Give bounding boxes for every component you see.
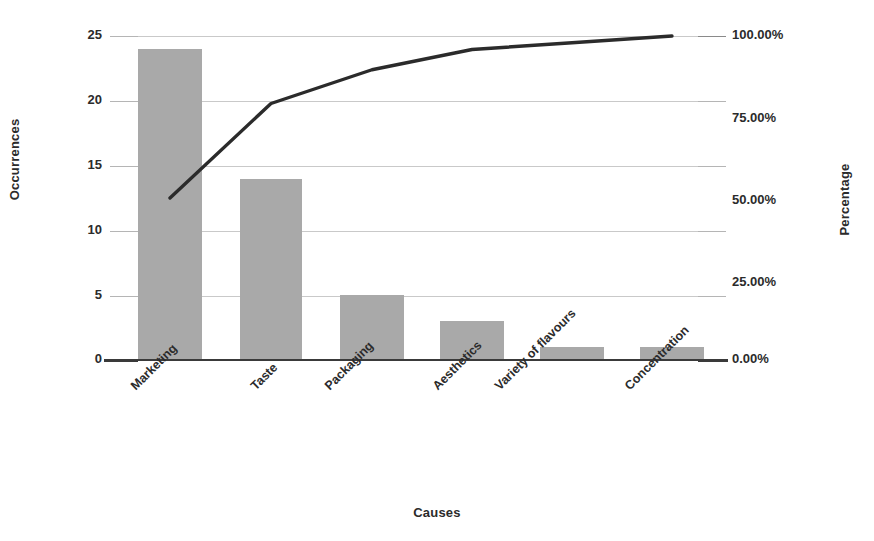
- tick-mark-left-20: [110, 101, 138, 102]
- tick-mark-right-50: [698, 166, 726, 167]
- tick-mark-left-10: [110, 231, 138, 232]
- tick-mark-right-75: [698, 101, 726, 102]
- y-tick-label-0: 0: [42, 351, 102, 366]
- y-tick-label-25: 25: [42, 27, 102, 42]
- bar-taste[interactable]: [240, 179, 302, 360]
- pareto-chart: Occurrences Percentage Causes 25 20 15 1…: [0, 0, 874, 541]
- gridline-20: [138, 101, 698, 102]
- y-axis-left-title: Occurrences: [7, 100, 22, 220]
- gridline-15: [138, 166, 698, 167]
- y2-tick-label-75: 75.00%: [732, 110, 822, 125]
- gridline-5: [138, 296, 698, 297]
- y-axis-right-title: Percentage: [837, 140, 852, 260]
- y-tick-label-15: 15: [42, 157, 102, 172]
- x-axis-title: Causes: [0, 505, 874, 520]
- tick-mark-right-25: [698, 231, 726, 232]
- y2-tick-label-50: 50.00%: [732, 192, 822, 207]
- tick-mark-right-0b: [698, 296, 726, 297]
- y2-tick-label-0: 0.00%: [732, 351, 822, 366]
- tick-mark-left-25: [110, 36, 138, 37]
- x-tick-label-taste: Taste: [248, 361, 280, 393]
- y2-tick-label-25: 25.00%: [732, 274, 822, 289]
- cumulative-percentage-line: [0, 0, 874, 541]
- gridline-25: [138, 36, 698, 37]
- y-tick-label-5: 5: [42, 287, 102, 302]
- y-tick-label-10: 10: [42, 222, 102, 237]
- gridline-10: [138, 231, 698, 232]
- x-axis-baseline: [104, 359, 728, 361]
- y2-tick-label-100: 100.00%: [732, 27, 822, 42]
- tick-mark-left-15: [110, 166, 138, 167]
- bar-marketing[interactable]: [138, 49, 202, 360]
- y-tick-label-20: 20: [42, 92, 102, 107]
- tick-mark-left-5: [110, 296, 138, 297]
- tick-mark-right-100: [698, 36, 726, 37]
